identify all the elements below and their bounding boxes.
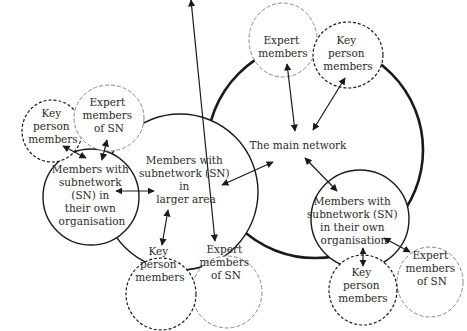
arrow-top-key-main: [313, 78, 345, 130]
top-expert-label: Expert members: [258, 34, 307, 59]
right-org-label: Members with subnetwork (SN) in their ow…: [307, 195, 401, 246]
main-network-label: The main network: [250, 139, 348, 151]
network-diagram: The main network Expert members Key pers…: [0, 0, 467, 331]
arrow-right-org-main: [305, 158, 337, 191]
